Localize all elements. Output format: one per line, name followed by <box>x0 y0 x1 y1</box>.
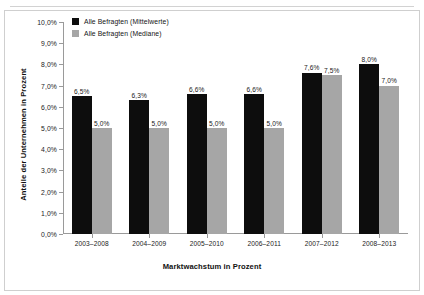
y-axis-tick-mark <box>59 234 63 235</box>
x-axis-category-label: 2005–2010 <box>190 240 224 247</box>
bar-group: 7,6%7,5%2007–2012 <box>293 22 351 234</box>
bar-mediane[interactable]: 5,0% <box>207 128 227 234</box>
x-axis-tick-mark <box>322 234 323 238</box>
bar-mittelwerte[interactable]: 8,0% <box>359 64 379 234</box>
bar-value-label: 6,5% <box>74 88 89 95</box>
bar-group: 6,5%5,0%2003–2008 <box>63 22 121 234</box>
bar-value-label: 7,5% <box>324 67 339 74</box>
bar-mittelwerte[interactable]: 6,5% <box>72 96 92 234</box>
bar-value-label: 6,6% <box>247 86 262 93</box>
x-axis-tick-mark <box>207 234 208 238</box>
legend-item-label: Alle Befragten (Mittelwerte) <box>84 18 169 25</box>
x-axis-tick-mark <box>92 234 93 238</box>
bar-value-label: 6,3% <box>132 92 147 99</box>
bar-mediane[interactable]: 5,0% <box>264 128 284 234</box>
bar-value-label: 7,6% <box>304 64 319 71</box>
x-axis-category-label: 2008–2013 <box>362 240 396 247</box>
bar-groups: 6,5%5,0%2003–20086,3%5,0%2004–20096,6%5,… <box>63 22 408 234</box>
bar-group: 8,0%7,0%2008–2013 <box>351 22 409 234</box>
legend-swatch-icon <box>72 18 79 25</box>
plot-area: 10,0%9,0%8,0%7,0%6,0%5,0%4,0%3,0%2,0%1,0… <box>63 22 408 234</box>
x-axis-category-label: 2003–2008 <box>75 240 109 247</box>
bar-value-label: 6,6% <box>189 86 204 93</box>
bar-value-label: 7,0% <box>382 77 397 84</box>
x-axis-category-label: 2007–2012 <box>305 240 339 247</box>
legend-item-label: Alle Befragten (Mediane) <box>84 30 162 37</box>
legend-item[interactable]: Alle Befragten (Mediane) <box>72 30 169 37</box>
x-axis-tick-mark <box>149 234 150 238</box>
y-axis-title: Anteile der Unternehmen in Prozent <box>19 50 28 220</box>
bar-value-label: 5,0% <box>152 120 167 127</box>
bar-group: 6,6%5,0%2006–2011 <box>236 22 294 234</box>
chart-legend: Alle Befragten (Mittelwerte)Alle Befragt… <box>72 18 169 42</box>
bar-group: 6,6%5,0%2005–2010 <box>178 22 236 234</box>
x-axis-category-label: 2004–2009 <box>132 240 166 247</box>
bar-group: 6,3%5,0%2004–2009 <box>121 22 179 234</box>
bar-mittelwerte[interactable]: 6,6% <box>244 94 264 234</box>
legend-item[interactable]: Alle Befragten (Mittelwerte) <box>72 18 169 25</box>
chart-figure: Anteile der Unternehmen in Prozent Markt… <box>0 0 424 295</box>
top-divider <box>10 6 414 7</box>
bar-mediane[interactable]: 7,0% <box>379 86 399 234</box>
bar-value-label: 8,0% <box>362 56 377 63</box>
bar-value-label: 5,0% <box>94 120 109 127</box>
bar-mediane[interactable]: 7,5% <box>322 75 342 234</box>
legend-swatch-icon <box>72 30 79 37</box>
x-axis-tick-mark <box>264 234 265 238</box>
bar-mittelwerte[interactable]: 7,6% <box>302 73 322 234</box>
x-axis-title: Marktwachstum in Prozent <box>0 262 424 271</box>
bar-mittelwerte[interactable]: 6,6% <box>187 94 207 234</box>
bar-value-label: 5,0% <box>209 120 224 127</box>
bar-value-label: 5,0% <box>267 120 282 127</box>
x-axis-tick-mark <box>379 234 380 238</box>
bar-mediane[interactable]: 5,0% <box>92 128 112 234</box>
bar-mittelwerte[interactable]: 6,3% <box>129 100 149 234</box>
x-axis-category-label: 2006–2011 <box>248 240 281 247</box>
bar-mediane[interactable]: 5,0% <box>149 128 169 234</box>
